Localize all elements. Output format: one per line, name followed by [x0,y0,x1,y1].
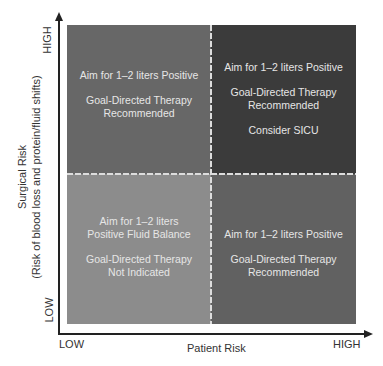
gdt-recommendation: Goal-Directed Therapy Recommended [230,253,336,279]
x-axis-line [58,333,366,335]
x-axis-title: Patient Risk [187,342,246,354]
x-axis-arrow-icon [364,330,373,338]
quadrant-low-patient-high-surgical: Aim for 1–2 liters Positive Goal-Directe… [67,25,211,174]
x-axis-low-label: LOW [59,338,84,350]
y-axis-arrow-icon [55,12,63,21]
fluid-recommendation: Aim for 1–2 liters Positive Fluid Balanc… [87,215,190,241]
y-axis-title: Surgical Risk (Risk of blood loss and pr… [15,72,43,282]
horizontal-divider [67,173,356,175]
y-axis-low-label: LOW [43,297,55,322]
fluid-recommendation: Aim for 1–2 liters Positive [80,69,198,82]
quadrant-low-patient-low-surgical: Aim for 1–2 liters Positive Fluid Balanc… [67,174,211,324]
gdt-recommendation: Goal-Directed Therapy Recommended [230,86,336,112]
y-axis-high-label: HIGH [41,26,53,54]
gdt-recommendation: Goal-Directed Therapy Recommended [86,94,192,120]
quadrant-high-patient-low-surgical: Aim for 1–2 liters Positive Goal-Directe… [211,174,356,324]
sicu-recommendation: Consider SICU [248,124,318,137]
y-axis-line [58,18,60,335]
x-axis-high-label: HIGH [333,338,361,350]
fluid-recommendation: Aim for 1–2 liters Positive [224,228,342,241]
quadrant-high-patient-high-surgical: Aim for 1–2 liters Positive Goal-Directe… [211,25,356,174]
gdt-recommendation: Goal-Directed Therapy Not Indicated [86,253,192,279]
quadrant-grid: Aim for 1–2 liters Positive Goal-Directe… [67,25,356,324]
fluid-recommendation: Aim for 1–2 liters Positive [224,61,342,74]
